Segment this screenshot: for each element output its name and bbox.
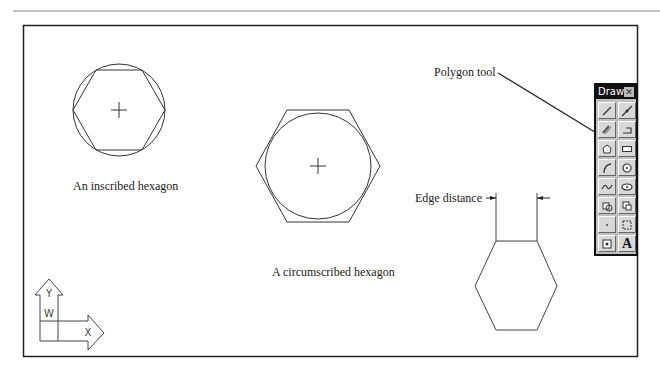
construction-line-icon: [621, 105, 633, 117]
hatch-tool-button[interactable]: [618, 216, 636, 233]
spline-tool-button[interactable]: [598, 178, 616, 195]
polygon-tool-leader: [498, 73, 603, 137]
hatch-icon: [621, 219, 633, 231]
insert-block-tool-button[interactable]: [598, 197, 616, 214]
inscribed-hexagon-caption: An inscribed hexagon: [73, 179, 178, 194]
inscribed-hexagon-figure: [73, 64, 165, 156]
ucs-icon: Y W X: [35, 279, 104, 350]
region-icon: [601, 238, 613, 250]
point-icon: [601, 219, 613, 231]
make-block-tool-button[interactable]: [618, 197, 636, 214]
arrowhead-left: [490, 196, 496, 200]
ucs-w-label: W: [44, 308, 54, 319]
ellipse-tool-button[interactable]: [618, 178, 636, 195]
polygon-icon: [601, 143, 613, 155]
circumscribed-hexagon-figure: [256, 110, 380, 222]
ellipse-icon: [621, 181, 633, 193]
arc-tool-button[interactable]: [598, 159, 616, 176]
insert-block-icon: [601, 200, 613, 212]
toolbar-title-bar[interactable]: Draw ✕: [596, 85, 636, 99]
circumscribed-hexagon-caption: A circumscribed hexagon: [272, 265, 395, 280]
circle-icon: [621, 162, 633, 174]
construction-line-tool-button[interactable]: [618, 102, 636, 119]
arrowhead-right: [537, 196, 543, 200]
circle-tool-button[interactable]: [618, 159, 636, 176]
rectangle-tool-button[interactable]: [618, 140, 636, 157]
ucs-x-label: X: [85, 327, 92, 338]
toolbar-title: Draw: [598, 86, 624, 97]
line-icon: [601, 105, 613, 117]
make-block-icon: [621, 200, 633, 212]
text-icon: A: [622, 236, 632, 252]
arc-icon: [601, 162, 613, 174]
rectangle-icon: [621, 143, 633, 155]
polyline-icon: [621, 124, 633, 136]
polygon-tool-button[interactable]: [598, 140, 616, 157]
multiline-icon: [601, 124, 613, 136]
polygon-tool-label: Polygon tool: [434, 65, 496, 80]
draw-toolbar: Draw ✕ A: [594, 83, 638, 256]
line-tool-button[interactable]: [598, 102, 616, 119]
edge-hexagon: [475, 241, 557, 330]
point-tool-button[interactable]: [598, 216, 616, 233]
region-tool-button[interactable]: [598, 235, 616, 252]
edge-distance-label: Edge distance: [415, 191, 482, 206]
polyline-tool-button[interactable]: [618, 121, 636, 138]
multiline-text-tool-button[interactable]: A: [618, 235, 636, 252]
multiline-tool-button[interactable]: [598, 121, 616, 138]
edge-distance-hexagon-figure: [475, 193, 557, 330]
spline-icon: [601, 181, 613, 193]
close-icon[interactable]: ✕: [624, 87, 634, 97]
ucs-y-label: Y: [45, 288, 53, 299]
